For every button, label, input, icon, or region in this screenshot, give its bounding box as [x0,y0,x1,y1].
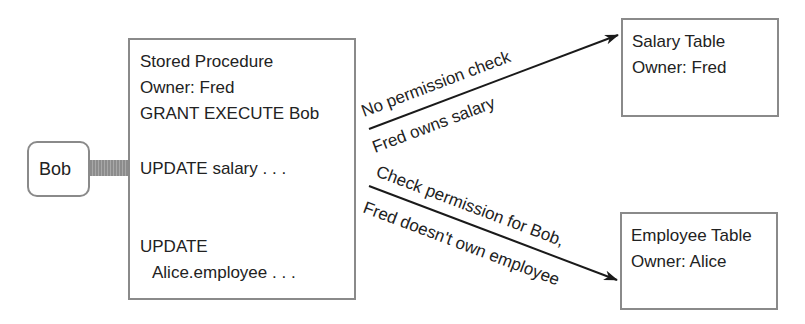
arrows-layer: No permission check Fred owns salary Che… [0,0,805,324]
arrow-to-employee [369,186,617,280]
arrow-to-salary [369,35,618,129]
